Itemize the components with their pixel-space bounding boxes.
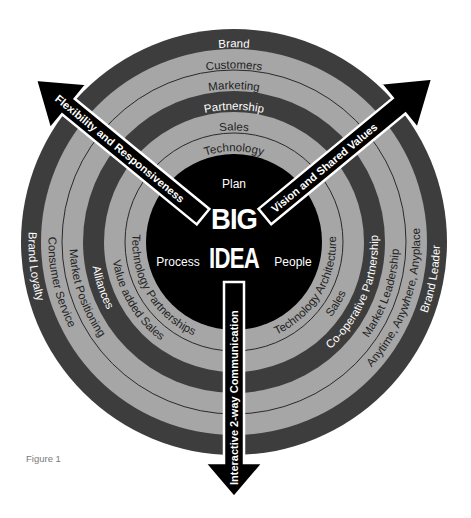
ring-label-top-2: Sales xyxy=(219,120,250,133)
big-idea-diagram: Technology Sales Partnership Marketing C… xyxy=(0,0,471,518)
svg-text:Sales: Sales xyxy=(219,120,250,133)
ring-label-top-6: Brand xyxy=(218,37,250,50)
svg-text:Marketing: Marketing xyxy=(207,79,260,93)
figure-caption: Figure 1 xyxy=(26,453,61,464)
svg-text:Brand: Brand xyxy=(218,37,250,50)
ring-label-top-4: Marketing xyxy=(207,79,260,93)
arrow-down-label: Interactive 2-way Communication xyxy=(228,310,240,485)
